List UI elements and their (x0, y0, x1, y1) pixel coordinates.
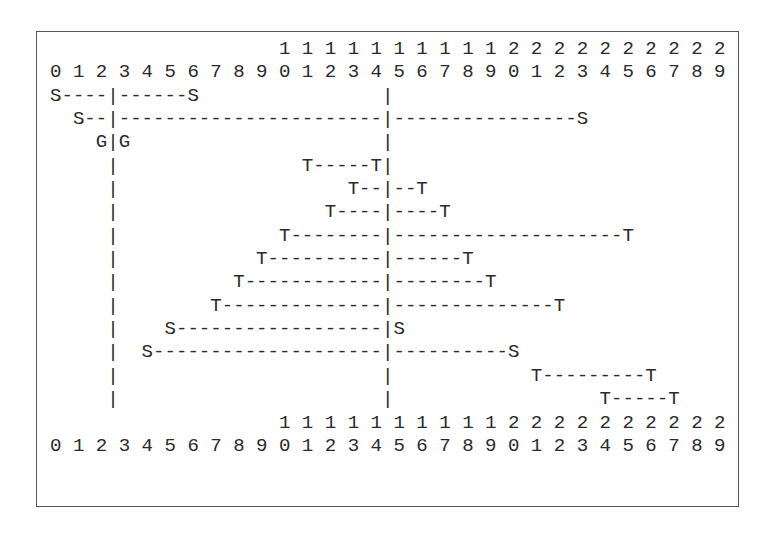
interval-row: G|G | (50, 131, 725, 154)
interval-row: | T--------------|--------------T (50, 295, 725, 318)
interval-row: | S------------------|S (50, 318, 725, 341)
interval-row: | T--------|--------------------T (50, 225, 725, 248)
interval-row: S--|-----------------------|------------… (50, 108, 725, 131)
interval-row: | | T---------T (50, 365, 725, 388)
interval-row: | T----------|------T (50, 248, 725, 271)
interval-row: S----|------S | (50, 85, 725, 108)
interval-row: | T------------|--------T (50, 271, 725, 294)
header-units-row: 0 1 2 3 4 5 6 7 8 9 0 1 2 3 4 5 6 7 8 9 … (50, 61, 725, 84)
footer-units-row: 0 1 2 3 4 5 6 7 8 9 0 1 2 3 4 5 6 7 8 9 … (50, 435, 725, 458)
ascii-timeline-diagram: 1 1 1 1 1 1 1 1 1 1 2 2 2 2 2 2 2 2 2 20… (50, 38, 725, 458)
interval-row: | | T-----T (50, 388, 725, 411)
interval-row: | S--------------------|----------S (50, 341, 725, 364)
interval-row: | T-----T| (50, 155, 725, 178)
footer-tens-row: 1 1 1 1 1 1 1 1 1 1 2 2 2 2 2 2 2 2 2 2 (50, 412, 725, 435)
interval-row: | T--|--T (50, 178, 725, 201)
header-tens-row: 1 1 1 1 1 1 1 1 1 1 2 2 2 2 2 2 2 2 2 2 (50, 38, 725, 61)
interval-row: | T----|----T (50, 201, 725, 224)
